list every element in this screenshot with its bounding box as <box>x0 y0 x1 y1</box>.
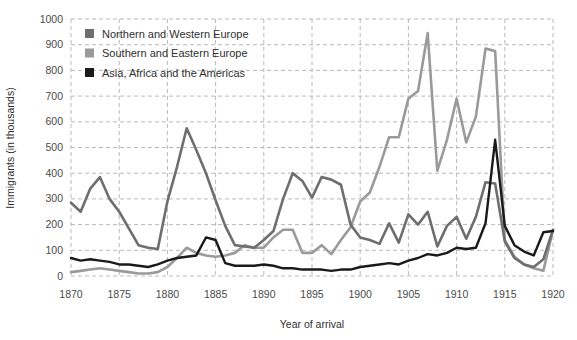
legend-label: Asia, Africa and the Americas <box>102 67 246 79</box>
x-tick-label: 1920 <box>541 288 565 300</box>
x-tick-label: 1875 <box>108 288 132 300</box>
y-tick-label: 400 <box>45 167 63 179</box>
x-tick-label: 1895 <box>300 288 324 300</box>
chart-figure: 01002003004005006007008009001000 1870187… <box>0 0 577 340</box>
x-tick-label: 1915 <box>493 288 517 300</box>
y-tick-label: 300 <box>45 192 63 204</box>
y-tick-label: 800 <box>45 64 63 76</box>
x-tick-label: 1900 <box>349 288 373 300</box>
y-tick-label: 900 <box>45 38 63 50</box>
legend-swatch <box>85 49 94 58</box>
x-axis-title: Year of arrival <box>280 318 344 330</box>
x-tick-label: 1885 <box>204 288 228 300</box>
y-tick-label: 100 <box>45 244 63 256</box>
y-tick-label: 1000 <box>40 13 64 25</box>
y-tick-label: 500 <box>45 141 63 153</box>
x-tick-label: 1870 <box>59 288 83 300</box>
x-tick-label: 1910 <box>445 288 469 300</box>
legend-swatch <box>85 29 94 38</box>
x-tick-label: 1890 <box>252 288 276 300</box>
y-tick-label: 0 <box>57 270 63 282</box>
y-axis-title: Immigrants (in thousands) <box>4 87 16 208</box>
x-tick-label: 1905 <box>397 288 421 300</box>
y-tick-label: 200 <box>45 218 63 230</box>
immigration-line-chart: 01002003004005006007008009001000 1870187… <box>0 0 577 340</box>
legend-label: Southern and Eastern Europe <box>102 47 248 59</box>
y-tick-label: 700 <box>45 90 63 102</box>
legend-swatch <box>85 68 94 77</box>
chart-legend: Northern and Western EuropeSouthern and … <box>85 28 249 79</box>
x-tick-label: 1880 <box>156 288 180 300</box>
legend-label: Northern and Western Europe <box>102 28 249 40</box>
y-tick-label: 600 <box>45 115 63 127</box>
